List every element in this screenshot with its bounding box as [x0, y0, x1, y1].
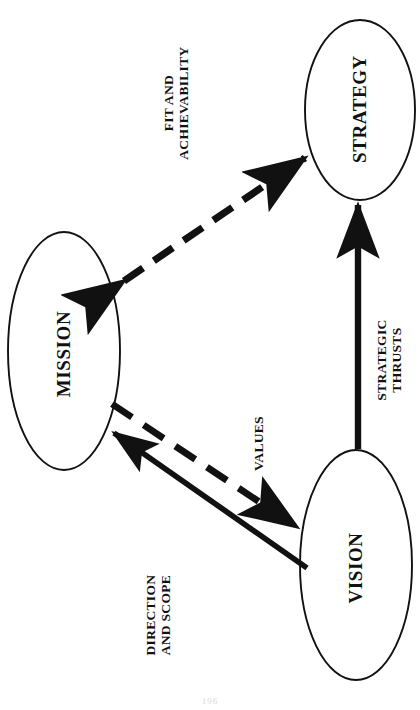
diagram-canvas: MISSION STRATEGY VISION FIT AND ACHIEVAB…	[0, 0, 420, 710]
edge-label-direction-and-scope-line1: DIRECTION	[143, 550, 158, 680]
edge-label-values: VALUES	[251, 389, 266, 499]
page-number: 196	[0, 696, 420, 706]
edge-label-fit-and-achievability-line2: ACHIEVABILITY	[176, 28, 191, 178]
edge-mission-vision-values-dashed	[112, 404, 297, 527]
edge-label-direction-and-scope: DIRECTION AND SCOPE	[143, 550, 173, 680]
edge-label-strategic-thrusts-line2: THRUSTS	[389, 300, 404, 420]
edge-label-strategic-thrusts: STRATEGIC THRUSTS	[374, 300, 404, 420]
edge-label-direction-and-scope-line2: AND SCOPE	[158, 550, 173, 680]
edge-label-fit-and-achievability-line1: FIT AND	[161, 28, 176, 178]
node-label-strategy: STRATEGY	[349, 63, 371, 163]
edge-vision-mission-direction-solid	[114, 433, 307, 568]
node-label-vision: VISION	[345, 518, 367, 618]
edge-label-strategic-thrusts-line1: STRATEGIC	[374, 300, 389, 420]
edge-label-fit-and-achievability: FIT AND ACHIEVABILITY	[161, 28, 191, 178]
edge-mission-strategy-dashed	[124, 158, 305, 281]
node-label-mission: MISSION	[53, 304, 75, 404]
